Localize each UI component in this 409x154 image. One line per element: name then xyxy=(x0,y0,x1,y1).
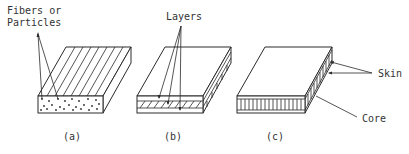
panel-b-front-face xyxy=(137,96,203,113)
panel-c-skin-label: Skin xyxy=(378,68,402,79)
panel-c-front-face xyxy=(237,96,305,113)
panel-a-label-line-1: Fibers or xyxy=(7,5,61,16)
panel-b-label: Layers xyxy=(166,11,202,22)
panel-a-label-line-2: Particles xyxy=(7,17,61,28)
panel-b-caption: (b) xyxy=(164,131,182,142)
leader-arrowhead-icon xyxy=(328,72,332,75)
panel-c-caption: (c) xyxy=(266,131,284,142)
panel-c-sandwich-composite: Skin Core (c) xyxy=(237,47,402,142)
panel-a-particulate-composite: Fibers or Particles (a) xyxy=(7,5,131,142)
panel-a-front-face xyxy=(38,96,103,113)
panel-a-caption: (a) xyxy=(63,131,81,142)
composite-structures-diagram: Fibers or Particles (a) xyxy=(0,0,409,154)
panel-b-laminated-composite: Layers (b) xyxy=(137,11,231,142)
panel-c-core-label: Core xyxy=(362,113,386,124)
leader-arrowhead-icon xyxy=(37,32,40,37)
